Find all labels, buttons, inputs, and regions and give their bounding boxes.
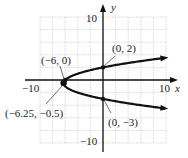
parabola-curve: [64, 58, 165, 108]
y-axis-label: y: [110, 1, 116, 13]
point-label-vertex-intercept: (−6, 0): [41, 54, 71, 67]
curve-arrow-upper-icon: [160, 55, 168, 61]
parabola-chart: y x 10 −10 −10 10 (−6, 0) (0, 2) (−6.25,…: [0, 0, 188, 158]
point-label-upper-intercept: (0, 2): [112, 42, 136, 55]
x-max-tick-label: 10: [159, 82, 171, 94]
y-min-tick-label: −10: [80, 135, 98, 147]
curve-arrow-lower-icon: [160, 105, 168, 111]
x-min-tick-label: −10: [22, 82, 40, 94]
x-axis-label: x: [174, 82, 180, 94]
leader-line: [104, 100, 111, 113]
point-label-lower-intercept: (0, −3): [108, 116, 138, 129]
leader-line: [46, 86, 62, 104]
y-max-tick-label: 10: [86, 12, 98, 24]
leader-line: [60, 66, 64, 79]
point-label-vertex: (−6.25, −0.5): [5, 107, 64, 120]
y-axis-arrow-icon: [100, 4, 106, 12]
